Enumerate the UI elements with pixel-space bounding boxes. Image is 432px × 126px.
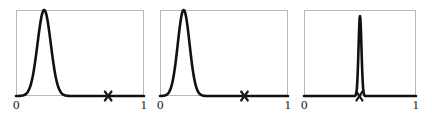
density-panel-3: 0 1 xyxy=(304,0,416,126)
x-axis-max-label: 1 xyxy=(413,97,420,113)
density-panel-figure: 0 1 0 1 0 1 xyxy=(0,0,432,126)
x-axis-max-label: 1 xyxy=(285,97,292,113)
marker-layer xyxy=(304,10,416,96)
axis-tick-labels: 0 1 xyxy=(16,97,144,119)
density-panel-2: 0 1 xyxy=(160,0,288,126)
x-axis-max-label: 1 xyxy=(141,97,148,113)
marker-layer xyxy=(160,10,288,96)
x-axis-min-label: 0 xyxy=(301,97,308,113)
axis-tick-labels: 0 1 xyxy=(160,97,288,119)
x-axis-min-label: 0 xyxy=(157,97,164,113)
density-panel-1: 0 1 xyxy=(16,0,144,126)
marker-layer xyxy=(16,10,144,96)
axis-tick-labels: 0 1 xyxy=(304,97,416,119)
x-axis-min-label: 0 xyxy=(13,97,20,113)
